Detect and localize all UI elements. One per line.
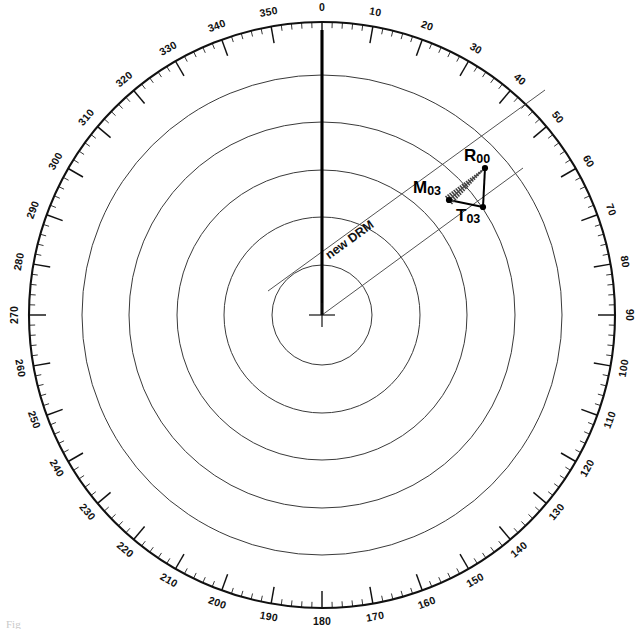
vector-label-letter-T03: T [456,206,467,225]
vector-label-subscript-T03: 03 [466,212,480,226]
figure-caption: Fig [6,618,21,629]
vector-label-letter-R00: R [464,146,476,165]
vector-label-subscript-R00: 00 [476,152,490,166]
vector-label-letter-M03: M [413,178,427,197]
degree-label-10: 10 [369,5,383,19]
degree-label-90: 90 [624,309,636,321]
vector-label-subscript-M03: 03 [427,184,441,198]
radar-plot-root: 0102030405060708090100110120130140150160… [0,0,644,629]
degree-label-0: 0 [319,1,325,13]
vertex-dot-T03 [480,204,486,210]
figure-caption-strip: Fig [0,616,644,629]
radar-plotting-sheet: 0102030405060708090100110120130140150160… [0,0,644,629]
degree-label-270: 270 [8,306,20,324]
vertex-dot-M03 [446,197,452,203]
degree-label-80: 80 [619,254,633,268]
